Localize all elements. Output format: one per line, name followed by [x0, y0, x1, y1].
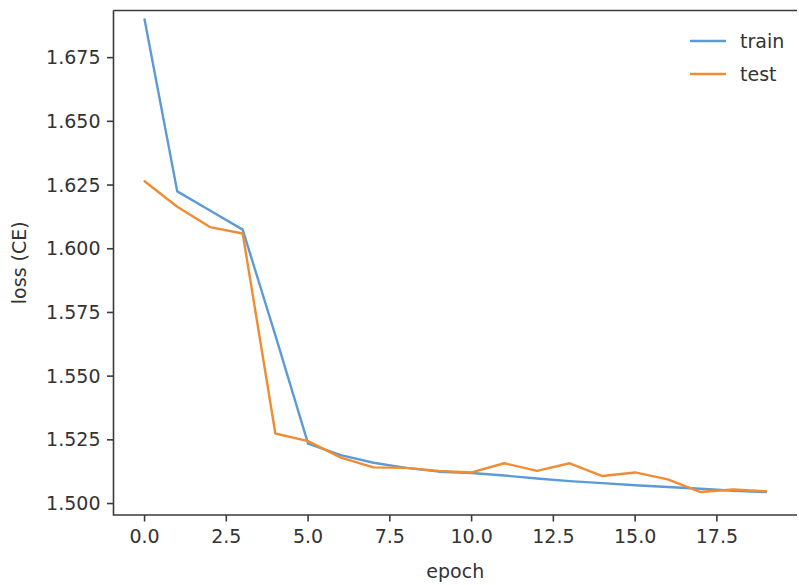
- line-chart: 0.02.55.07.510.012.515.017.5 1.5001.5251…: [0, 0, 799, 585]
- y-tick-label-3: 1.575: [46, 301, 100, 323]
- y-tick-label-2: 1.550: [46, 365, 100, 387]
- legend-label-test: test: [740, 63, 777, 85]
- chart-background: [0, 0, 799, 585]
- x-tick-label-4: 10.0: [450, 525, 492, 547]
- y-tick-label-4: 1.600: [46, 237, 100, 259]
- x-tick-label-3: 7.5: [375, 525, 405, 547]
- x-tick-label-0: 0.0: [129, 525, 159, 547]
- x-tick-label-5: 12.5: [532, 525, 574, 547]
- legend-label-train: train: [740, 30, 784, 52]
- y-tick-label-7: 1.675: [46, 46, 100, 68]
- y-tick-label-6: 1.650: [46, 110, 100, 132]
- x-tick-label-2: 5.0: [293, 525, 323, 547]
- x-tick-label-7: 17.5: [696, 525, 738, 547]
- y-tick-label-5: 1.625: [46, 174, 100, 196]
- y-tick-label-0: 1.500: [46, 492, 100, 514]
- figure-canvas: 0.02.55.07.510.012.515.017.5 1.5001.5251…: [0, 0, 799, 585]
- x-tick-label-6: 15.0: [614, 525, 656, 547]
- y-tick-label-1: 1.525: [46, 428, 100, 450]
- x-axis-title: epoch: [426, 560, 484, 582]
- y-axis-title: loss (CE): [8, 221, 30, 304]
- x-tick-label-1: 2.5: [211, 525, 241, 547]
